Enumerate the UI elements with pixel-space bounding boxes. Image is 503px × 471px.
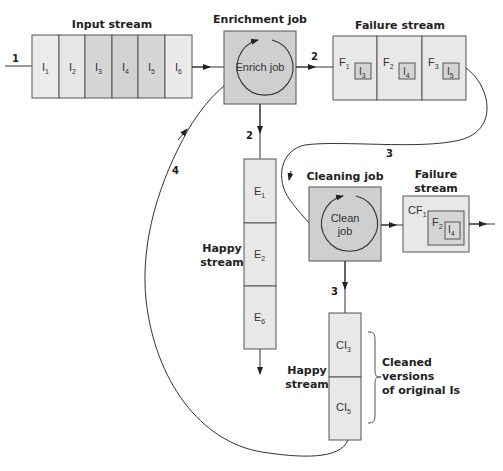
input-cell-3: [85, 35, 112, 98]
input-stream: I1 I2 I3 I4 I5 I6: [32, 35, 192, 98]
input-stream-title: Input stream: [72, 18, 152, 31]
cleaned-happy-stream-title-2: stream: [285, 378, 329, 391]
step-label-2a: 2: [311, 51, 318, 62]
cleaning-job-label-1: Clean: [331, 212, 360, 224]
failure-stream-title: Failure stream: [355, 19, 445, 32]
enriched-happy-stream: E1 E2 E6: [244, 159, 276, 349]
cleaning-failure-stream-title-2: stream: [414, 182, 458, 195]
cleaned-happy-stream-title-1: Happy: [287, 364, 327, 377]
step-label-1: 1: [12, 53, 19, 64]
cleaning-failure-stream-title-1: Failure: [415, 168, 458, 181]
failure-to-cleaning-arrow-icon: [289, 171, 291, 180]
enrichment-job-label: Enrich job: [236, 61, 285, 73]
enriched-happy-stream-title-1: Happy: [202, 242, 242, 255]
step-label-2b: 2: [246, 130, 253, 141]
step-label-3b: 3: [331, 286, 338, 297]
cleaned-happy-stream: CI3 CI5: [329, 313, 361, 440]
step-label-3a: 3: [386, 148, 393, 159]
failure-stream: F1 F2 F3 I3 I4 I5: [333, 36, 466, 100]
enrichment-job-title: Enrichment job: [213, 13, 307, 26]
cleaning-job-label-2: job: [337, 225, 353, 237]
input-cell-5: [138, 35, 165, 98]
input-cell-1: [32, 35, 59, 98]
step-label-4: 4: [172, 165, 179, 176]
cleaned-annotation-1: Cleaned: [382, 356, 432, 369]
input-cell-6: [165, 35, 192, 98]
enriched-happy-stream-title-2: stream: [200, 256, 244, 269]
brace-icon: [368, 332, 381, 423]
pipeline-diagram: 1 Input stream I1 I2 I3 I4 I5 I6 Enrichm…: [0, 0, 503, 471]
cleaned-annotation-2: versions: [382, 370, 435, 383]
cleaning-job-box: [309, 187, 381, 261]
cleaned-annotation-3: of original Is: [382, 384, 461, 397]
cleaning-job-title: Cleaning job: [306, 170, 383, 183]
